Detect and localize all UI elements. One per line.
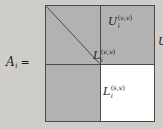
label-L-lower-vv-base: L: [93, 50, 100, 61]
quadrant-bottom-left: [46, 64, 100, 121]
horizontal-divider: [46, 64, 154, 65]
label-L-sv-base: L: [103, 86, 110, 97]
matrix-symbol-A: A: [6, 56, 15, 68]
label-L-sv-scripts: (s,v) i: [111, 86, 125, 99]
matrix-subscript-i: i: [15, 63, 17, 70]
label-U-upper-vv-superscript: (v,v): [118, 15, 133, 22]
label-U-upper-vv: U (v,v) i: [108, 16, 132, 29]
label-L-lower-vv-scripts: (v,v) i: [101, 50, 116, 63]
label-U-upper-vv-subscript: i: [118, 23, 120, 30]
label-L-lower-vv-superscript: (v,v): [101, 49, 116, 56]
label-U-vs-base: U: [158, 36, 163, 47]
paren-close: ): [130, 14, 133, 22]
quadrant-top-left: [46, 6, 100, 64]
block-matrix-figure: A i = U (v,v) i L (v,v) i: [0, 0, 163, 129]
label-U-upper-vv-scripts: (v,v) i: [118, 16, 133, 29]
block-matrix-box: U (v,v) i L (v,v) i U (v,s) i L: [45, 5, 155, 122]
lhs-equation-label: A i =: [6, 56, 30, 68]
label-L-sv: L (s,v) i: [103, 86, 125, 99]
label-U-upper-vv-base: U: [108, 16, 117, 27]
equals-sign: =: [20, 57, 29, 68]
paren-close: ): [122, 84, 125, 92]
label-L-lower-vv-subscript: i: [101, 57, 103, 64]
label-L-sv-subscript: i: [111, 93, 113, 100]
label-L-sv-superscript: (s,v): [111, 85, 125, 92]
label-U-vs: U (v,s) i: [158, 36, 163, 49]
label-L-lower-vv: L (v,v) i: [93, 50, 115, 63]
paren-close: ): [113, 48, 116, 56]
